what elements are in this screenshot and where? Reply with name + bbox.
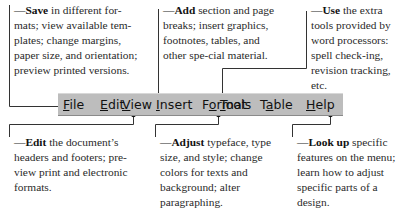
note-view-edit: —Edit the document’s headers and footers… [14,135,146,195]
dash: — [160,136,171,148]
note-format-adjust: —Adjust typeface, type size, and style; … [160,135,282,210]
note-keyword: Edit [25,136,46,148]
menu-file[interactable]: File [63,97,84,112]
note-file-save: —Save in different for-mats; view availa… [14,3,146,78]
dash: — [297,136,308,148]
note-keyword: Save [25,4,48,16]
dash: — [14,4,25,16]
label-rest: elp [316,97,335,112]
label-rest: nsert [160,97,193,112]
menu-edit[interactable]: Edit [100,97,125,112]
dash: — [163,4,174,16]
menu-bar: File Edit View Insert Format Tools Table… [58,93,343,116]
note-keyword: Add [174,4,195,16]
menu-help[interactable]: Help [306,97,335,112]
dash: — [14,136,25,148]
note-tools-use: —Use the extra tools provided by word pr… [311,3,401,93]
label-rest: ble [273,97,292,112]
mnemonic: H [306,97,316,112]
note-help-lookup: —Look up specific features on the menu; … [297,135,401,210]
mnemonic: E [100,97,108,112]
label-rest: ile [69,97,84,112]
note-keyword: Adjust [171,136,204,148]
dash: — [311,4,322,16]
note-text: the extra tools provided by word process… [311,4,391,91]
mnemonic: o [209,97,217,112]
label-rest: iew [130,97,152,112]
label-rest: ools [226,97,252,112]
note-insert-add: —Add section and page breaks; insert gra… [163,3,278,63]
menu-insert[interactable]: Insert [156,97,192,112]
menu-tools[interactable]: Tools [220,97,251,112]
note-keyword: Use [322,4,340,16]
note-keyword: Look up [308,136,349,148]
menu-table[interactable]: Table [260,97,293,112]
menu-view[interactable]: View [122,97,152,112]
label-pre: F [202,97,209,112]
